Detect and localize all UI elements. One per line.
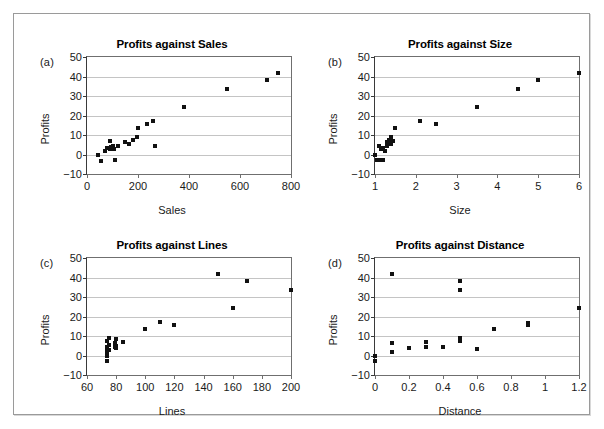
gridline bbox=[375, 96, 579, 97]
data-point bbox=[127, 142, 131, 146]
x-tick-label: 0.8 bbox=[503, 381, 518, 393]
data-point bbox=[108, 139, 112, 143]
x-tick-mark bbox=[416, 174, 417, 178]
data-point bbox=[107, 343, 111, 347]
y-tick-label: 50 bbox=[358, 252, 370, 264]
x-tick-label: 140 bbox=[194, 381, 212, 393]
y-tick-label: 40 bbox=[70, 272, 82, 284]
y-tick-label: 0 bbox=[364, 350, 370, 362]
y-tick-mark bbox=[83, 57, 87, 58]
x-tick-mark bbox=[497, 174, 498, 178]
x-tick-mark bbox=[233, 375, 234, 379]
data-point bbox=[107, 348, 111, 352]
x-tick-label: 120 bbox=[165, 381, 183, 393]
panel-label-a: (a) bbox=[40, 56, 54, 68]
data-point bbox=[158, 320, 162, 324]
gridline bbox=[87, 96, 291, 97]
x-tick-mark bbox=[145, 375, 146, 379]
data-point bbox=[475, 347, 479, 351]
y-axis-label-c: Profits bbox=[39, 285, 51, 375]
x-tick-mark bbox=[174, 375, 175, 379]
y-tick-label: 0 bbox=[364, 149, 370, 161]
x-tick-label: 400 bbox=[180, 180, 198, 192]
y-tick-label: 20 bbox=[70, 110, 82, 122]
plot-area-c: −10010203040506080100120140160180200 bbox=[86, 257, 292, 376]
data-point bbox=[216, 272, 220, 276]
data-point bbox=[135, 135, 139, 139]
data-point bbox=[107, 336, 111, 340]
data-point bbox=[105, 354, 109, 358]
x-tick-mark bbox=[138, 174, 139, 178]
data-point bbox=[390, 350, 394, 354]
data-point bbox=[276, 71, 280, 75]
panel-title-a: Profits against Sales bbox=[28, 38, 316, 50]
data-point bbox=[245, 279, 249, 283]
y-tick-label: 40 bbox=[70, 71, 82, 83]
data-point bbox=[265, 78, 269, 82]
x-tick-label: 800 bbox=[282, 180, 300, 192]
x-tick-mark bbox=[116, 375, 117, 379]
data-point bbox=[96, 153, 100, 157]
gridline bbox=[87, 155, 291, 156]
gridline bbox=[375, 278, 579, 279]
x-tick-mark bbox=[511, 375, 512, 379]
panel-label-b: (b) bbox=[328, 56, 342, 68]
gridline bbox=[375, 155, 579, 156]
y-tick-mark bbox=[83, 258, 87, 259]
gridline bbox=[375, 135, 579, 136]
data-point bbox=[418, 119, 422, 123]
gridline bbox=[87, 116, 291, 117]
data-point bbox=[424, 345, 428, 349]
y-tick-mark bbox=[83, 336, 87, 337]
data-point bbox=[151, 119, 155, 123]
data-point bbox=[577, 306, 581, 310]
y-tick-mark bbox=[371, 116, 375, 117]
y-tick-label: 30 bbox=[358, 291, 370, 303]
x-tick-label: 4 bbox=[494, 180, 500, 192]
x-tick-mark bbox=[538, 174, 539, 178]
data-point bbox=[114, 337, 118, 341]
y-tick-mark bbox=[83, 135, 87, 136]
y-tick-label: 10 bbox=[358, 129, 370, 141]
y-tick-mark bbox=[371, 96, 375, 97]
data-point bbox=[373, 354, 377, 358]
y-tick-mark bbox=[371, 278, 375, 279]
data-point bbox=[516, 87, 520, 91]
data-point bbox=[458, 288, 462, 292]
y-tick-label: 20 bbox=[358, 311, 370, 323]
x-axis-label-a: Sales bbox=[28, 204, 316, 216]
panel-title-c: Profits against Lines bbox=[28, 239, 316, 251]
panel-title-d: Profits against Distance bbox=[316, 239, 604, 251]
figure-outer-frame: (a) Profits against Sales Profits −10010… bbox=[13, 13, 590, 415]
data-point bbox=[536, 78, 540, 82]
x-tick-label: 80 bbox=[110, 381, 122, 393]
data-point bbox=[373, 153, 377, 157]
x-tick-label: 2 bbox=[413, 180, 419, 192]
gridline bbox=[87, 77, 291, 78]
data-point bbox=[393, 126, 397, 130]
x-tick-mark bbox=[375, 174, 376, 178]
gridline bbox=[375, 116, 579, 117]
x-tick-mark bbox=[240, 174, 241, 178]
y-tick-mark bbox=[83, 77, 87, 78]
data-point bbox=[492, 327, 496, 331]
data-point bbox=[105, 359, 109, 363]
y-tick-mark bbox=[371, 135, 375, 136]
y-tick-label: 0 bbox=[76, 149, 82, 161]
y-tick-mark bbox=[83, 278, 87, 279]
plot-area-b: −1001020304050123456 bbox=[374, 56, 580, 175]
x-tick-mark bbox=[579, 174, 580, 178]
y-tick-label: 30 bbox=[358, 90, 370, 102]
y-tick-label: 40 bbox=[358, 272, 370, 284]
figure-canvas: (a) Profits against Sales Profits −10010… bbox=[0, 0, 604, 429]
panel-title-b: Profits against Size bbox=[316, 38, 604, 50]
y-tick-mark bbox=[83, 356, 87, 357]
gridline bbox=[87, 356, 291, 357]
panel-label-d: (d) bbox=[328, 257, 342, 269]
gridline bbox=[87, 297, 291, 298]
x-tick-mark bbox=[291, 174, 292, 178]
data-point bbox=[424, 340, 428, 344]
data-point bbox=[143, 327, 147, 331]
x-tick-label: 60 bbox=[81, 381, 93, 393]
y-tick-label: 30 bbox=[70, 90, 82, 102]
